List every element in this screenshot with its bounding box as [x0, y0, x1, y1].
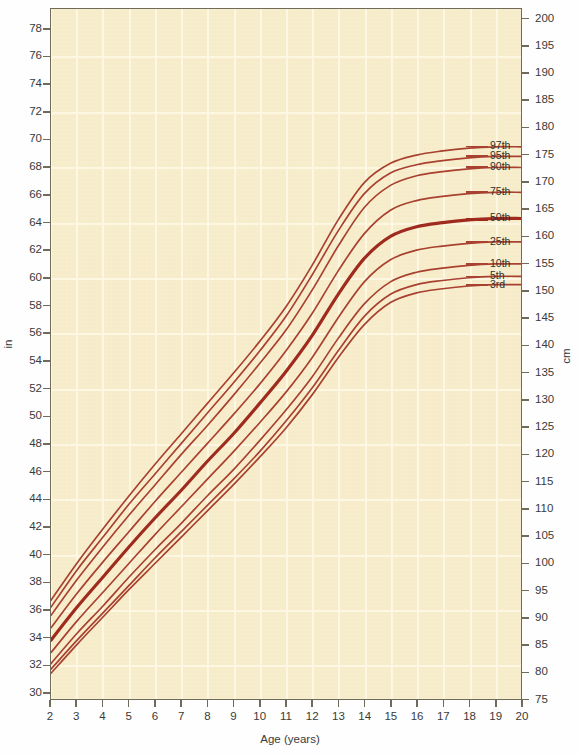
x-tick: [49, 700, 51, 707]
x-tick: [311, 700, 313, 707]
y-tick-label-in: 46: [2, 465, 42, 477]
y-tick-label-in: 58: [2, 299, 42, 311]
y-tick-cm: [522, 99, 529, 101]
y-tick-in: [43, 166, 50, 168]
y-tick-label-in: 36: [2, 603, 42, 615]
x-tick: [469, 700, 471, 707]
y-tick-cm: [522, 127, 529, 129]
y-tick-label-in: 32: [2, 658, 42, 670]
y-tick-label-in: 70: [2, 132, 42, 144]
percentile-curves: [51, 9, 521, 698]
y-tick-cm: [522, 535, 529, 537]
y-tick-label-in: 42: [2, 520, 42, 532]
y-tick-label-in: 60: [2, 271, 42, 283]
y-tick-in: [43, 471, 50, 473]
y-tick-label-in: 72: [2, 105, 42, 117]
y-tick-label-in: 62: [2, 243, 42, 255]
y-tick-in: [43, 249, 50, 251]
y-tick-label-cm: 200: [535, 12, 575, 24]
growth-chart: 3032343638404244464850525456586062646668…: [0, 0, 580, 755]
y-tick-cm: [522, 372, 529, 374]
y-tick-cm: [522, 72, 529, 74]
x-tick: [259, 700, 261, 707]
percentile-curve-5th: [51, 276, 521, 669]
y-tick-label-cm: 120: [535, 447, 575, 459]
y-tick-label-cm: 115: [535, 475, 575, 487]
y-tick-in: [43, 222, 50, 224]
y-tick-cm: [522, 590, 529, 592]
y-tick-label-in: 44: [2, 492, 42, 504]
y-tick-in: [43, 305, 50, 307]
x-tick: [75, 700, 77, 707]
y-tick-cm: [522, 481, 529, 483]
callout-leader-97th: [466, 146, 488, 148]
y-tick-label-cm: 100: [535, 556, 575, 568]
y-tick-cm: [522, 426, 529, 428]
percentile-label-50th: 50th: [490, 211, 510, 223]
y-tick-cm: [522, 345, 529, 347]
y-tick-cm: [522, 317, 529, 319]
y-tick-label-cm: 170: [535, 175, 575, 187]
y-tick-label-in: 50: [2, 409, 42, 421]
percentile-curve-25th: [51, 242, 521, 653]
y-tick-label-in: 78: [2, 22, 42, 34]
y-tick-in: [43, 637, 50, 639]
y-tick-label-in: 64: [2, 216, 42, 228]
x-tick: [102, 700, 104, 707]
y-tick-in: [43, 28, 50, 30]
x-tick: [207, 700, 209, 707]
callout-leader-25th: [466, 241, 488, 243]
callout-leader-3rd: [466, 284, 488, 286]
y-tick-label-in: 40: [2, 548, 42, 560]
y-tick-label-cm: 75: [535, 693, 575, 705]
y-tick-label-in: 76: [2, 49, 42, 61]
y-tick-label-in: 48: [2, 437, 42, 449]
percentile-curve-10th: [51, 264, 521, 664]
y-tick-cm: [522, 644, 529, 646]
y-tick-cm: [522, 454, 529, 456]
y-tick-label-in: 56: [2, 326, 42, 338]
y-axis-title-in: in: [2, 340, 14, 349]
y-tick-in: [43, 332, 50, 334]
y-tick-label-cm: 185: [535, 93, 575, 105]
y-tick-label-cm: 130: [535, 393, 575, 405]
y-tick-cm: [522, 263, 529, 265]
callout-leader-50th: [466, 218, 488, 221]
y-tick-label-cm: 85: [535, 638, 575, 650]
y-tick-cm: [522, 399, 529, 401]
callout-leader-10th: [466, 263, 488, 265]
y-tick-label-cm: 125: [535, 420, 575, 432]
y-tick-cm: [522, 617, 529, 619]
y-tick-in: [43, 360, 50, 362]
y-tick-label-cm: 180: [535, 120, 575, 132]
y-tick-in: [43, 499, 50, 501]
y-tick-in: [43, 554, 50, 556]
x-tick: [128, 700, 130, 707]
x-tick: [285, 700, 287, 707]
y-tick-label-cm: 90: [535, 611, 575, 623]
y-tick-label-cm: 80: [535, 665, 575, 677]
x-tick: [416, 700, 418, 707]
y-tick-label-cm: 145: [535, 311, 575, 323]
y-tick-cm: [522, 672, 529, 674]
y-tick-in: [43, 277, 50, 279]
y-tick-cm: [522, 154, 529, 156]
x-tick: [154, 700, 156, 707]
y-tick-label-cm: 165: [535, 202, 575, 214]
y-tick-label-in: 68: [2, 160, 42, 172]
y-tick-cm: [522, 181, 529, 183]
y-tick-label-in: 30: [2, 686, 42, 698]
x-tick: [233, 700, 235, 707]
y-tick-label-cm: 190: [535, 66, 575, 78]
x-tick: [180, 700, 182, 707]
callout-leader-95th: [466, 155, 488, 157]
y-tick-cm: [522, 699, 529, 701]
y-tick-label-cm: 175: [535, 148, 575, 160]
y-tick-label-cm: 105: [535, 529, 575, 541]
y-tick-label-cm: 135: [535, 366, 575, 378]
callout-leader-90th: [466, 166, 488, 168]
y-tick-cm: [522, 290, 529, 292]
callout-leader-5th: [466, 276, 488, 278]
y-tick-label-cm: 110: [535, 502, 575, 514]
x-tick: [443, 700, 445, 707]
